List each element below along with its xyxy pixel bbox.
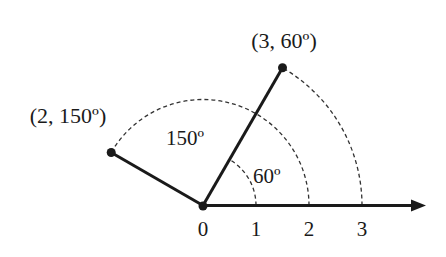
tick-label-1: 1 [251, 217, 262, 241]
angle-arc-150 [111, 99, 309, 205]
angle-label-150: 150º [166, 126, 205, 150]
polar-diagram: 0 1 2 3 (3, 60º) (2, 150º) 60º 150º [0, 0, 446, 257]
origin-point [199, 202, 208, 211]
tick-label-0: 0 [198, 217, 209, 241]
tick-label-2: 2 [304, 217, 315, 241]
angle-label-60: 60º [253, 164, 281, 188]
axis-arrow-icon [411, 200, 426, 212]
tick-label-3: 3 [357, 217, 368, 241]
point-2-150 [107, 148, 116, 157]
point-label-2-150: (2, 150º) [30, 103, 106, 128]
point-3-60 [278, 63, 287, 72]
radius-arc-3 [283, 68, 363, 206]
ray-2-150 [111, 153, 203, 206]
point-label-3-60: (3, 60º) [251, 28, 316, 53]
